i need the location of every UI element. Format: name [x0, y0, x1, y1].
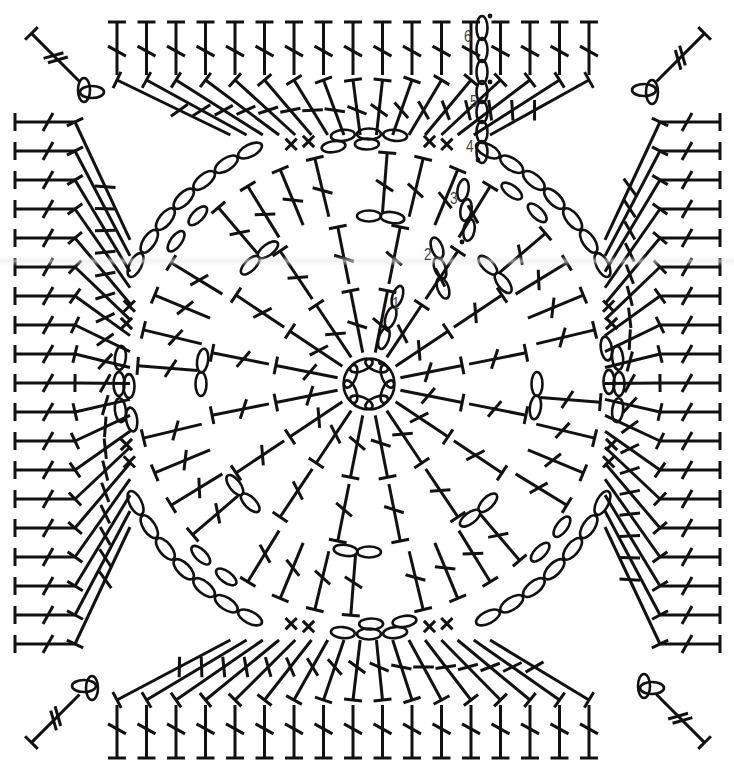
chain-stitch — [196, 372, 207, 396]
stitch-top-bar — [562, 255, 571, 270]
double-crochet-stitch — [500, 233, 546, 272]
chain-stitch — [474, 606, 503, 628]
stitch-yarn-over-bar — [95, 251, 115, 253]
stitch-yarn-over-bar — [435, 567, 455, 569]
stitch-yarn-over-bar — [436, 666, 456, 669]
stitch-top-bar — [210, 344, 214, 362]
stitch-yarn-over-bar — [302, 110, 323, 111]
stitch-yarn-over-bar — [620, 467, 640, 473]
slip-stitch — [476, 158, 481, 163]
stitch-top-bar — [592, 429, 596, 447]
stitch-top-bar — [306, 607, 324, 611]
double-crochet-stitch — [481, 515, 520, 561]
stitch-top-bar — [342, 475, 360, 479]
double-crochet-stitch — [280, 543, 303, 598]
stitch-yarn-over-bar — [102, 483, 109, 502]
stitch-yarn-over-bar — [629, 329, 630, 350]
stitch-yarn-over-bar — [223, 657, 225, 677]
stitch-yarn-over-bar — [262, 445, 264, 466]
stitch-top-bar — [414, 156, 432, 160]
chain-stitch — [457, 507, 483, 530]
chain-stitch — [492, 270, 515, 296]
stitch-yarn-over-bar — [286, 658, 294, 677]
stitch-yarn-over-bar — [430, 490, 451, 492]
stitch-top-bar — [231, 288, 241, 303]
chain-stitch — [255, 238, 281, 261]
double-crochet-stitch — [396, 402, 448, 437]
stitch-top-bar — [434, 75, 449, 84]
double-crochet-stitch — [138, 366, 198, 371]
chain-stitch — [72, 680, 96, 692]
stitch-yarn-over-bar — [318, 407, 320, 428]
chain-stitch — [434, 276, 452, 300]
double-crochet-stitch — [117, 640, 230, 700]
double-crochet-stitch — [236, 441, 284, 473]
chain-stitch — [80, 86, 104, 98]
double-crochet-stitch — [528, 295, 583, 318]
slip-stitch — [460, 240, 465, 245]
double-crochet-stitch — [459, 531, 490, 582]
stitch-top-bar — [273, 512, 288, 522]
stitch-top-bar — [166, 498, 175, 513]
chain-stitch — [525, 200, 550, 225]
stitch-top-bar — [464, 695, 478, 706]
double-crochet-stitch — [176, 640, 263, 700]
double-crochet-stitch — [409, 80, 442, 135]
stitch-top-bar — [374, 79, 392, 81]
chain-stitch — [477, 38, 488, 62]
stitch-yarn-over-bar — [283, 199, 303, 201]
chain-stitch — [520, 575, 548, 601]
slip-stitch — [488, 14, 493, 19]
stitch-yarn-over-bar — [201, 657, 202, 678]
stitch-yarn-over-bar — [620, 513, 640, 515]
stitch-top-bar — [240, 181, 255, 190]
stitch-yarn-over-bar — [244, 657, 248, 677]
chain-stitch — [165, 228, 188, 254]
stitch-yarn-over-bar — [538, 270, 539, 291]
double-crochet-stitch — [294, 640, 328, 700]
stitch-top-bar — [450, 246, 465, 256]
chain-stitch — [378, 363, 397, 389]
stitch-yarn-over-bar — [391, 665, 411, 669]
stitch-top-bar — [414, 458, 429, 468]
stitch-top-bar — [658, 403, 662, 421]
stitch-top-bar — [379, 475, 397, 479]
chain-stitch — [153, 535, 179, 563]
chain-stitch — [190, 168, 218, 194]
double-crochet-stitch — [324, 640, 344, 700]
stitch-yarn-over-bar — [552, 298, 554, 318]
double-crochet-stitch — [280, 170, 303, 225]
stitch-yarn-over-bar — [392, 433, 413, 435]
stitch-top-bar — [414, 300, 429, 310]
stitch-yarn-over-bar — [199, 478, 200, 499]
round-label-1: 1 — [392, 295, 400, 312]
stitch-top-bar — [344, 699, 362, 701]
double-crochet-stitch — [117, 80, 230, 135]
double-crochet-stitch — [31, 694, 79, 742]
double-crochet-stitch — [376, 640, 382, 700]
stitch-yarn-over-bar — [328, 659, 342, 674]
stitch-yarn-over-bar — [418, 340, 420, 361]
stitch-top-bar — [257, 694, 271, 705]
stitch-top-bar — [600, 393, 601, 411]
round-label-3: 3 — [450, 190, 458, 207]
double-crochet-stitch — [605, 495, 660, 586]
chain-stitch — [330, 626, 355, 639]
stitch-yarn-over-bar — [481, 663, 500, 670]
stitch-top-bar — [342, 289, 360, 293]
stitch-top-bar — [443, 324, 453, 339]
chain-stitch — [213, 565, 239, 588]
double-crochet-stitch — [393, 80, 412, 135]
double-crochet-stitch — [382, 153, 387, 213]
stitch-top-bar — [240, 577, 255, 586]
double-crochet-stitch — [193, 496, 239, 535]
round-label-6: 6 — [464, 28, 472, 45]
stitch-top-bar — [285, 324, 295, 339]
stitch-top-bar — [306, 156, 324, 160]
chain-stitch — [383, 626, 408, 639]
stitch-yarn-over-bar — [184, 450, 186, 470]
stitch-yarn-over-bar — [95, 293, 115, 299]
stitch-top-bar — [210, 406, 214, 424]
stitch-yarn-over-bar — [518, 245, 522, 265]
stitch-yarn-over-bar — [325, 333, 346, 335]
